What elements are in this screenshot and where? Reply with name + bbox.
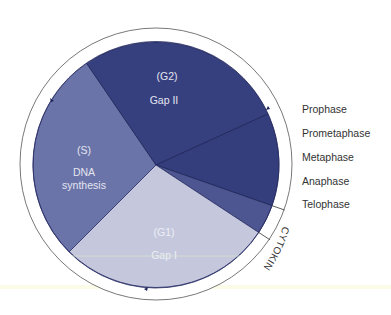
phase-label-prophase: Prophase	[302, 103, 347, 115]
s-label-top: (S)	[77, 144, 91, 156]
phase-label-telophase: Telophase	[302, 198, 350, 210]
phase-label-anaphase: Anaphase	[302, 175, 349, 187]
g2-label-top: (G2)	[157, 70, 178, 82]
phase-label-metaphase: Metaphase	[302, 151, 354, 163]
g2-label-bottom: Gap II	[150, 94, 179, 106]
s-label-extra: synthesis	[62, 179, 106, 191]
g1-label-top: (G1)	[154, 226, 175, 238]
s-label-bottom: DNA	[73, 166, 95, 178]
g1-label-bottom: Gap I	[151, 249, 177, 261]
phase-label-prometaphase: Prometaphase	[302, 127, 370, 139]
